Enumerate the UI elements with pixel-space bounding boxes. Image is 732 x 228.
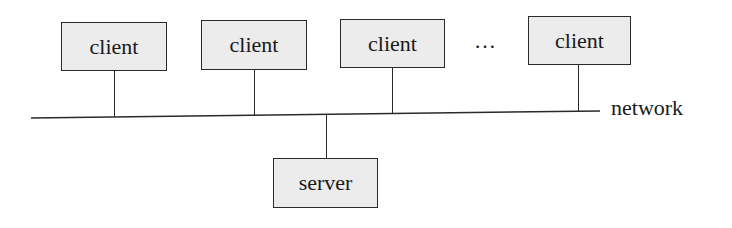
server-link [326, 114, 327, 158]
server-node: server [273, 158, 378, 208]
client-node-2: client [201, 20, 307, 70]
client-node-2-label: client [230, 32, 279, 58]
server-node-label: server [299, 170, 353, 196]
client-3-link [392, 68, 393, 114]
client-node-3-label: client [368, 31, 417, 57]
ellipsis: … [474, 28, 496, 54]
client-node-3: client [340, 19, 445, 68]
network-label: network [611, 95, 683, 121]
client-node-1: client [61, 22, 167, 71]
client-node-4: client [528, 16, 631, 65]
client-1-link [114, 71, 115, 117]
client-node-4-label: client [555, 28, 604, 54]
client-2-link [254, 70, 255, 116]
client-4-link [578, 65, 579, 112]
client-node-1-label: client [90, 34, 139, 60]
